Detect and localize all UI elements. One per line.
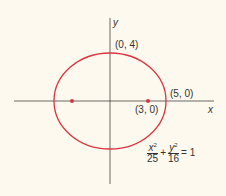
point-label-3-0: (3, 0) (135, 104, 158, 115)
point-label-5-0: (5, 0) (170, 88, 193, 99)
ellipse-equation: x2 25 + y2 16 = 1 (147, 140, 195, 164)
focus-left (70, 99, 74, 103)
x-axis-label: x (208, 104, 213, 115)
fraction-y: y2 16 (168, 140, 179, 164)
point-label-0-4: (0, 4) (115, 39, 138, 50)
fraction-x: x2 25 (147, 140, 158, 164)
focus-right (146, 99, 150, 103)
y-axis-label: y (113, 17, 118, 28)
